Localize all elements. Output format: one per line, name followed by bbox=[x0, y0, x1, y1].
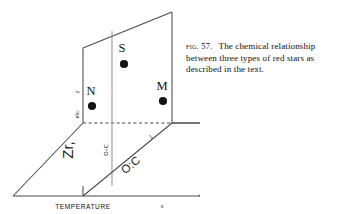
axis-label-temperature: TEMPERATURE bbox=[55, 203, 110, 210]
data-point-s bbox=[120, 60, 128, 68]
data-point-group bbox=[88, 60, 167, 110]
data-point-n bbox=[88, 102, 96, 110]
caption-paragraph: FIG. 57. The chemical relationship betwe… bbox=[186, 41, 341, 76]
axis-label-x: x bbox=[161, 203, 164, 209]
axis-label-zr: Zr, bbox=[59, 141, 76, 159]
caption-figure-number: FIG. 57. bbox=[186, 42, 213, 51]
vertical-plane bbox=[83, 12, 172, 123]
diagram-canvas: S N M z etc. Zr, O÷C O:C 1 TEMPERATURE x bbox=[0, 0, 200, 214]
axis-label-etc: etc. bbox=[74, 110, 80, 118]
axis-label-diagonal-ratio: O:C bbox=[119, 154, 142, 176]
figure-diagram: S N M z etc. Zr, O÷C O:C 1 TEMPERATURE x bbox=[0, 0, 200, 214]
data-point-m bbox=[159, 97, 167, 105]
data-point-label-n: N bbox=[86, 84, 95, 98]
data-point-label-s: S bbox=[119, 41, 126, 55]
axis-label-mid-ratio: O÷C bbox=[103, 144, 109, 155]
figure-caption: FIG. 57. The chemical relationship betwe… bbox=[186, 41, 341, 76]
plane-right-wing bbox=[172, 123, 200, 196]
horizontal-plane bbox=[13, 123, 200, 196]
data-point-label-m: M bbox=[156, 79, 167, 93]
vertical-plane-top-edge bbox=[83, 12, 172, 48]
axis-label-z: z bbox=[74, 90, 80, 93]
